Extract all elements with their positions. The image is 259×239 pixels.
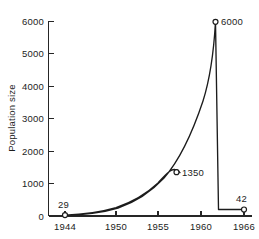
- data-point-1957: [174, 170, 179, 175]
- data-label-6000: 6000: [221, 16, 243, 27]
- data-point-1944: [63, 213, 68, 218]
- data-label-29: 29: [58, 199, 69, 210]
- population-curve: [65, 22, 244, 215]
- x-tick-label-1966: 1966: [233, 221, 255, 232]
- x-tick-label-1944: 1944: [54, 221, 76, 232]
- y-tick-label-4000: 4000: [22, 81, 44, 92]
- y-axis-ticks: [49, 22, 55, 217]
- chart-canvas: 6000 5000 4000 3000 2000 1000 0 1944 195…: [0, 0, 259, 239]
- x-tick-label-1960: 1960: [190, 221, 212, 232]
- x-tick-label-1950: 1950: [105, 221, 127, 232]
- population-size-line-chart: 6000 5000 4000 3000 2000 1000 0 1944 195…: [0, 0, 259, 239]
- data-label-1350: 1350: [182, 167, 204, 178]
- y-tick-label-6000: 6000: [22, 16, 44, 27]
- y-tick-label-0: 0: [39, 211, 44, 222]
- y-tick-label-2000: 2000: [22, 146, 44, 157]
- y-tick-label-5000: 5000: [22, 48, 44, 59]
- x-tick-label-1955: 1955: [147, 221, 169, 232]
- data-point-1963: [213, 19, 218, 24]
- data-label-42: 42: [236, 193, 247, 204]
- y-axis-title: Population size: [6, 84, 17, 151]
- y-tick-label-1000: 1000: [22, 178, 44, 189]
- y-tick-label-3000: 3000: [22, 113, 44, 124]
- data-point-1966: [242, 207, 247, 212]
